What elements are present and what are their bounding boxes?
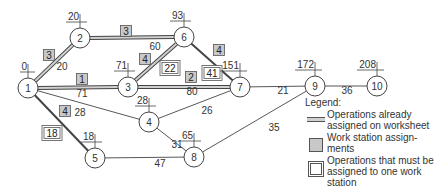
edge-weight-label: 71 [76, 88, 88, 99]
legend-item-single-station-operations: Operations that must be assigned to one … [305, 155, 442, 188]
workstation-assignment-box: 4 [60, 106, 71, 118]
node-7: 1517 [220, 60, 250, 97]
workstation-assignment-box: 4 [214, 45, 225, 57]
legend-item-label: Operations already assigned on worksheet [327, 109, 442, 131]
node-number: 4 [146, 117, 152, 128]
legend-item-workstation-assignments: Work station assign-ments [305, 132, 442, 154]
node-2: 202 [66, 11, 90, 48]
node-time-label: 18 [83, 131, 95, 142]
box-label: 1 [79, 74, 85, 85]
box-label: 3 [46, 50, 52, 61]
node-5: 185 [81, 131, 105, 168]
box-label: 18 [46, 128, 58, 139]
single-station-operation-box: 22 [160, 61, 180, 76]
node-time-label: 208 [359, 59, 376, 70]
legend-item-assigned-operations: Operations already assigned on worksheet [305, 109, 442, 131]
node-number: 3 [125, 82, 131, 93]
edge-weight-label: 35 [268, 122, 280, 133]
gray-box-icon [309, 138, 323, 152]
legend-item-label: Work station assign-ments [327, 132, 442, 154]
workstation-assignment-box: 3 [44, 50, 55, 62]
node-time-label: 20 [68, 11, 80, 22]
node-time-label: 65 [182, 130, 194, 141]
node-number: 7 [237, 82, 243, 93]
workstation-assignment-box: 2 [186, 72, 197, 84]
edge-weight-label: 60 [149, 41, 161, 52]
box-label: 4 [142, 54, 148, 65]
box-label: 4 [62, 106, 68, 117]
node-time-label: 172 [297, 59, 314, 70]
single-station-operation-box: 18 [42, 126, 62, 141]
edge-weight-label: 26 [201, 105, 213, 116]
legend-item-label: Operations that must be assigned to one … [327, 155, 442, 188]
box-label: 3 [123, 26, 129, 37]
node-number: 6 [181, 32, 187, 43]
edge-1-5 [35, 95, 88, 151]
node-time-label: 71 [116, 60, 128, 71]
workstation-assignment-box: 1 [77, 74, 88, 86]
edge-weight-label: 36 [341, 85, 353, 96]
node-number: 10 [371, 81, 383, 92]
node-4: 284 [135, 95, 159, 132]
node-10: 20810 [357, 59, 387, 96]
node-time-label: 28 [137, 95, 149, 106]
edge-weight-label: 47 [154, 158, 166, 169]
edge-weight-label: 20 [56, 61, 68, 72]
box-label: 22 [164, 63, 176, 74]
box-label: 4 [216, 45, 222, 56]
legend-title: Legend: [305, 97, 442, 108]
node-time-label: 0 [21, 61, 27, 72]
node-number: 9 [312, 81, 318, 92]
node-3: 713 [114, 60, 138, 97]
workstation-assignment-box: 4 [140, 54, 151, 66]
node-number: 8 [191, 152, 197, 163]
node-number: 1 [25, 83, 31, 94]
edge-8-9 [203, 91, 307, 152]
single-station-operation-box: 41 [202, 66, 222, 81]
box-label: 2 [188, 72, 194, 83]
edge-weight-label: 21 [277, 85, 289, 96]
node-6: 936 [170, 10, 194, 47]
double-box-icon [310, 163, 322, 175]
edge-2-6 [90, 37, 174, 38]
double-line-icon [307, 117, 325, 122]
edge-weight-label: 28 [74, 107, 86, 118]
node-time-label: 93 [172, 10, 184, 21]
legend: Legend: Operations already assigned on w… [305, 97, 442, 188]
node-number: 2 [77, 33, 83, 44]
workstation-assignment-box: 3 [121, 26, 132, 38]
node-number: 5 [92, 153, 98, 164]
edge-5-8 [105, 157, 184, 158]
edge-weight-label: 80 [186, 86, 198, 97]
box-label: 41 [206, 68, 218, 79]
node-time-label: 151 [222, 60, 239, 71]
node-9: 1729 [295, 59, 325, 96]
